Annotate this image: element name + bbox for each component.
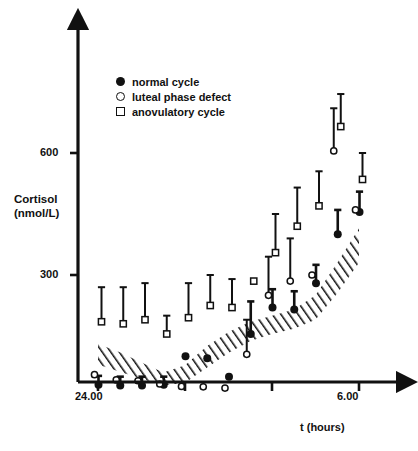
data-point-filled-circle	[203, 354, 211, 362]
data-point-open-square	[142, 317, 148, 323]
data-point-open-square	[251, 278, 257, 284]
open-square-icon	[112, 107, 129, 116]
data-point-open-circle	[331, 148, 337, 154]
legend-label-normal-cycle: normal cycle	[132, 76, 199, 88]
data-point-filled-circle	[182, 352, 190, 360]
data-point-open-circle	[287, 278, 293, 284]
y-axis-label-line2: (nmol/L)	[14, 206, 59, 220]
data-point-open-square	[272, 250, 278, 256]
data-point-open-circle	[200, 384, 206, 390]
data-point-open-square	[164, 331, 170, 337]
data-point-filled-circle	[247, 330, 255, 338]
x-tick-label-end: 6.00	[337, 390, 358, 402]
data-point-open-circle	[309, 272, 315, 278]
data-point-open-circle	[265, 292, 271, 298]
data-point-open-square	[294, 223, 300, 229]
data-point-open-square	[229, 304, 235, 310]
chart-canvas	[0, 0, 418, 451]
data-point-open-square	[338, 123, 344, 129]
legend-label-anovulatory-cycle: anovulatory cycle	[132, 106, 225, 118]
data-point-filled-circle	[334, 230, 342, 238]
data-point-open-circle	[222, 385, 228, 391]
data-point-open-circle	[178, 383, 184, 389]
data-point-filled-circle	[312, 279, 320, 287]
legend-label-luteal-phase-defect: luteal phase defect	[132, 91, 231, 103]
filled-circle-icon	[112, 77, 129, 86]
cortisol-scatter-figure: Cortisol (nmol/L) t (hours) 600 300 24.0…	[0, 0, 418, 451]
data-point-filled-circle	[269, 304, 277, 312]
data-point-open-square	[185, 315, 191, 321]
data-point-open-square	[207, 302, 213, 308]
legend-item-anovulatory-cycle: anovulatory cycle	[112, 104, 231, 119]
legend-item-luteal-phase-defect: luteal phase defect	[112, 89, 231, 104]
legend-item-normal-cycle: normal cycle	[112, 74, 231, 89]
data-point-open-square	[359, 176, 365, 182]
data-point-filled-circle	[290, 306, 298, 314]
y-axis-label: Cortisol (nmol/L)	[14, 192, 59, 220]
y-tick-label-600: 600	[40, 146, 58, 158]
x-axis-label: t (hours)	[300, 421, 345, 433]
open-circle-icon	[112, 92, 129, 101]
data-point-open-circle	[244, 351, 250, 357]
data-point-open-square	[98, 319, 104, 325]
y-tick-label-300: 300	[40, 268, 58, 280]
x-tick-label-start: 24.00	[75, 390, 103, 402]
data-point-open-square	[316, 203, 322, 209]
data-point-open-circle	[91, 372, 97, 378]
data-point-open-circle	[352, 207, 358, 213]
data-point-filled-circle	[225, 373, 233, 381]
data-point-open-square	[120, 321, 126, 327]
chart-legend: normal cycle luteal phase defect anovula…	[112, 74, 231, 119]
y-axis-label-line1: Cortisol	[14, 192, 59, 206]
